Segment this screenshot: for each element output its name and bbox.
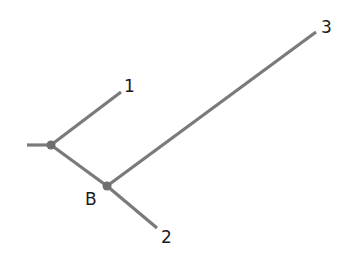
branch-b-to-3 — [107, 32, 316, 186]
branch-b-to-2 — [107, 186, 157, 228]
branch-a-to-1 — [51, 92, 121, 145]
node-label-b: B — [85, 189, 97, 209]
branch-a-to-b — [51, 145, 107, 186]
tree-diagram: 1 2 3 B — [0, 0, 362, 254]
leaf-label-2: 2 — [161, 227, 172, 247]
leaf-label-3: 3 — [321, 17, 332, 37]
leaf-label-1: 1 — [124, 76, 135, 96]
node-a — [47, 141, 56, 150]
node-b — [103, 182, 112, 191]
